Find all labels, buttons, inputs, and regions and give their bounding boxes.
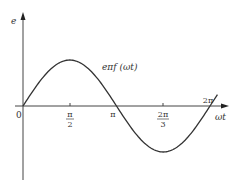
tick-pi-half-den: 2	[67, 120, 72, 129]
x-axis-label: ωt	[215, 112, 226, 122]
tick-2pi-label: 2π	[203, 96, 213, 105]
y-axis-arrow-icon	[21, 12, 26, 20]
tick-pi-label: π	[110, 110, 115, 119]
tick-3pi-half-den: 3	[160, 120, 165, 129]
y-axis-label: e	[11, 16, 16, 26]
tick-pi-half-num: π	[67, 110, 72, 119]
origin-label: 0	[16, 110, 22, 120]
curve-label: eπf (ωt)	[102, 62, 138, 72]
tick-3pi-half-num: 2π	[158, 110, 168, 119]
sine-chart: e ωt eπf (ωt) 0 π 2 π 2π 3 2π	[0, 0, 240, 188]
x-axis-arrow-icon	[221, 104, 229, 109]
